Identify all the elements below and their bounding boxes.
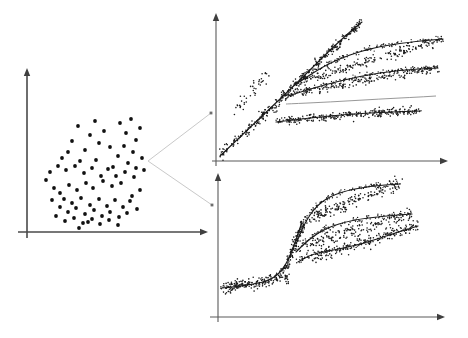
detail-scatter-point [299, 120, 300, 121]
detail-scatter-point [399, 76, 401, 78]
detail-scatter-point [422, 72, 424, 74]
scatter-point [140, 156, 144, 160]
detail-scatter-point [354, 26, 355, 27]
detail-scatter-point [352, 229, 354, 231]
detail-scatter-point [331, 239, 333, 241]
detail-scatter-point [305, 238, 306, 239]
detail-scatter-point [310, 88, 311, 89]
detail-scatter-point [374, 229, 376, 231]
detail-scatter-point [329, 238, 331, 240]
detail-scatter-point [348, 39, 350, 41]
detail-scatter-point [347, 115, 348, 116]
detail-scatter-point [244, 96, 246, 98]
detail-scatter-point [261, 73, 263, 75]
detail-scatter-point [387, 183, 388, 184]
detail-scatter-point [392, 187, 394, 189]
detail-scatter-point [313, 218, 315, 220]
detail-scatter-point [368, 235, 370, 237]
detail-scatter-point [290, 85, 292, 87]
detail-scatter-point [366, 230, 368, 232]
detail-scatter-point [382, 236, 383, 237]
detail-scatter-point [395, 49, 397, 51]
detail-scatter-point [336, 46, 338, 48]
detail-scatter-point [381, 44, 382, 45]
detail-scatter-point [377, 224, 379, 226]
detail-scatter-point [339, 72, 341, 74]
detail-scatter-point [417, 221, 419, 223]
detail-scatter-point [364, 77, 366, 79]
detail-scatter-point [371, 73, 372, 74]
detail-scatter-point [351, 247, 353, 249]
detail-scatter-point [352, 30, 353, 31]
detail-scatter-point [245, 129, 246, 130]
detail-scatter-point [312, 117, 313, 118]
detail-scatter-point [334, 70, 336, 72]
detail-scatter-point [404, 78, 406, 80]
detail-scatter-point [429, 41, 430, 42]
detail-scatter-point [222, 159, 224, 161]
detail-scatter-point [252, 277, 254, 279]
detail-scatter-point [292, 119, 293, 120]
detail-scatter-point [328, 236, 330, 238]
detail-scatter-point [265, 120, 267, 122]
scatter-point [88, 133, 92, 137]
detail-scatter-point [296, 123, 298, 125]
detail-scatter-point [393, 212, 394, 213]
detail-scatter-point [374, 192, 376, 194]
detail-scatter-point [343, 207, 345, 209]
detail-scatter-point [275, 107, 277, 109]
detail-scatter-point [398, 186, 399, 187]
scatter-point [142, 168, 146, 172]
detail-scatter-point [242, 280, 244, 282]
detail-scatter-point [426, 68, 427, 69]
detail-scatter-point [326, 87, 328, 89]
detail-scatter-point [395, 186, 397, 188]
scatter-point [66, 210, 70, 214]
scatter-point [90, 217, 94, 221]
detail-scatter-point [258, 111, 260, 113]
detail-scatter-point [326, 114, 327, 115]
detail-scatter-point [390, 59, 392, 61]
detail-scatter-point [221, 288, 222, 289]
detail-scatter-point [407, 73, 409, 75]
detail-scatter-point [349, 84, 351, 86]
detail-scatter-point [313, 65, 314, 66]
scatter-point [84, 181, 88, 185]
detail-scatter-point [377, 187, 378, 188]
detail-scatter-point [288, 119, 289, 120]
detail-scatter-point [365, 184, 366, 185]
scatter-point [50, 198, 54, 202]
detail-scatter-point [312, 260, 314, 262]
detail-scatter-point [355, 84, 357, 86]
detail-scatter-point [402, 111, 403, 112]
detail-scatter-point [296, 91, 297, 92]
detail-scatter-point [425, 45, 427, 47]
detail-scatter-point [238, 136, 240, 138]
detail-scatter-point [395, 222, 397, 224]
detail-scatter-point [441, 36, 443, 38]
detail-scatter-point [349, 245, 350, 246]
detail-scatter-point [340, 41, 341, 42]
detail-scatter-point [377, 240, 378, 241]
detail-scatter-point [286, 121, 288, 123]
detail-scatter-point [289, 124, 290, 125]
detail-scatter-point [235, 107, 237, 109]
detail-scatter-point [330, 75, 332, 77]
detail-scatter-point [416, 109, 417, 110]
detail-scatter-point [332, 116, 333, 117]
scatter-point [66, 150, 70, 154]
detail-scatter-point [332, 193, 333, 194]
detail-scatter-point [282, 272, 283, 273]
detail-scatter-point [267, 277, 269, 279]
detail-scatter-point [234, 280, 236, 282]
detail-scatter-point [369, 81, 371, 83]
detail-scatter-point [418, 45, 420, 47]
detail-scatter-point [371, 184, 372, 185]
detail-scatter-point [389, 215, 390, 216]
detail-scatter-point [353, 217, 354, 218]
detail-scatter-point [381, 58, 383, 60]
detail-scatter-point [251, 287, 253, 289]
scatter-point [97, 197, 101, 201]
detail-scatter-point [383, 234, 384, 235]
detail-scatter-point [428, 43, 430, 45]
